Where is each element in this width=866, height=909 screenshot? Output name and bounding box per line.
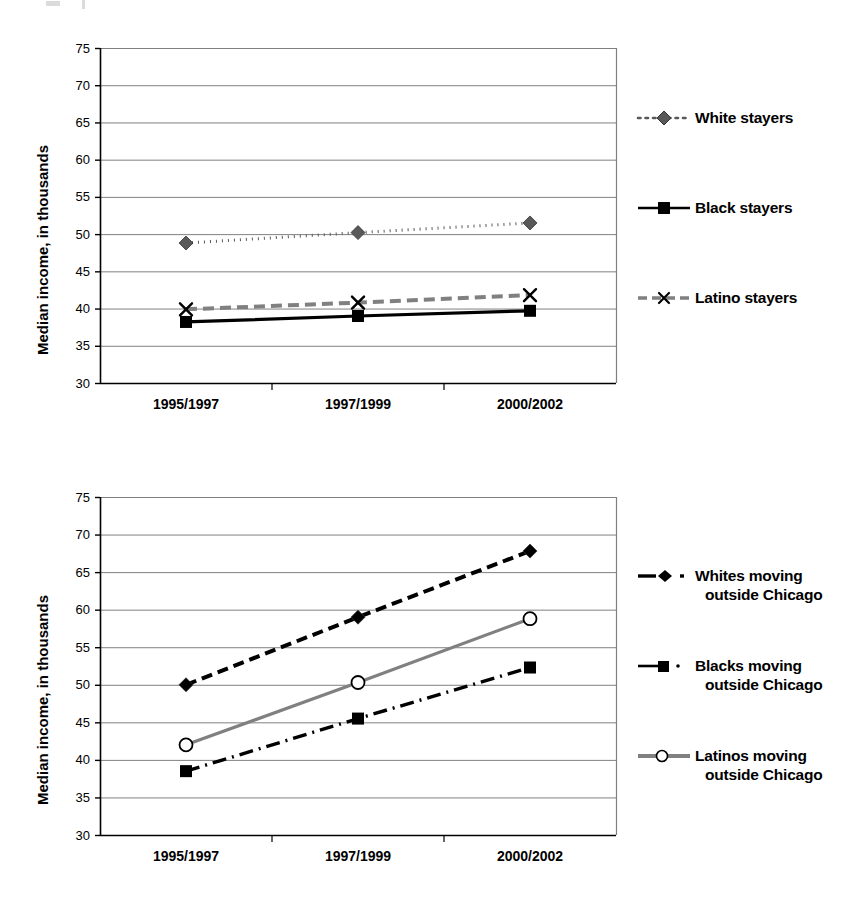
y-tick-label: 60 xyxy=(76,152,90,167)
latino-stayers-key-icon xyxy=(636,288,692,308)
data-point-marker xyxy=(180,765,192,777)
x-tick-labels: 1995/19971997/19992000/2002 xyxy=(153,835,563,864)
data-point-marker xyxy=(352,713,364,725)
y-tick-label: 70 xyxy=(76,78,90,93)
x-tick-labels: 1995/19971997/19992000/2002 xyxy=(153,383,563,412)
legend-label-whites-moving: Whites movingoutside Chicago xyxy=(695,566,823,604)
y-tick-label: 55 xyxy=(76,189,90,204)
y-tick-labels: 30354045505560657075 xyxy=(76,490,90,843)
legend-label-blacks-moving: Blacks movingoutside Chicago xyxy=(695,656,823,694)
y-tick-label: 35 xyxy=(76,338,90,353)
whites-moving-key-icon xyxy=(636,566,692,586)
x-tick-label: 1997/1999 xyxy=(325,396,391,412)
scan-artifact xyxy=(82,0,85,9)
y-tick-label: 30 xyxy=(76,376,90,391)
data-point-marker xyxy=(524,305,536,317)
legend-item-blacks-moving[interactable]: Blacks movingoutside Chicago xyxy=(636,656,823,694)
y-tick-label: 75 xyxy=(76,41,90,56)
x-tick-label: 2000/2002 xyxy=(497,396,563,412)
legend-stayers: White stayers Black stayers xyxy=(636,0,866,460)
x-tick-label: 1997/1999 xyxy=(325,848,391,864)
y-tick-label: 40 xyxy=(76,752,90,767)
latinos-moving-key-icon xyxy=(636,746,692,766)
y-tick-label: 65 xyxy=(76,565,90,580)
y-tick-label: 60 xyxy=(76,602,90,617)
legend-movers: Whites movingoutside Chicago Blacks movi… xyxy=(636,460,866,909)
x-tick-label: 2000/2002 xyxy=(497,848,563,864)
y-tick-label: 35 xyxy=(76,790,90,805)
x-tick-label: 1995/1997 xyxy=(153,396,219,412)
white-stayers-key-icon xyxy=(636,108,692,128)
y-tick-label: 55 xyxy=(76,640,90,655)
y-tick-label: 65 xyxy=(76,115,90,130)
data-point-marker xyxy=(179,678,193,692)
blacks-moving-key-icon xyxy=(636,656,692,676)
data-point-marker xyxy=(180,738,193,751)
data-point-marker xyxy=(352,310,364,322)
chart-movers: Median income, in thousands 303540455055… xyxy=(0,460,866,909)
data-point-marker xyxy=(351,226,365,240)
data-point-marker xyxy=(179,236,193,250)
legend-item-latinos-moving[interactable]: Latinos movingoutside Chicago xyxy=(636,746,823,784)
y-tick-label: 45 xyxy=(76,264,90,279)
y-tick-label: 40 xyxy=(76,301,90,316)
legend-item-whites-moving[interactable]: Whites movingoutside Chicago xyxy=(636,566,823,604)
legend-item-white-stayers[interactable]: White stayers xyxy=(636,108,793,128)
data-point-marker xyxy=(524,612,537,625)
chart-stayers: Median income, in thousands 303540455055… xyxy=(0,0,866,460)
data-point-marker xyxy=(180,316,192,328)
legend-item-latino-stayers[interactable]: Latino stayers xyxy=(636,288,797,308)
data-point-marker xyxy=(352,676,365,689)
legend-label-white-stayers: White stayers xyxy=(695,108,793,127)
y-tick-label: 70 xyxy=(76,527,90,542)
y-tick-label: 45 xyxy=(76,715,90,730)
gridlines xyxy=(95,497,617,836)
y-tick-label: 30 xyxy=(76,828,90,843)
legend-label-latinos-moving: Latinos movingoutside Chicago xyxy=(695,746,823,784)
legend-label-latino-stayers: Latino stayers xyxy=(695,288,797,307)
y-tick-label: 75 xyxy=(76,490,90,505)
legend-label-black-stayers: Black stayers xyxy=(695,198,792,217)
x-tick-label: 1995/1997 xyxy=(153,848,219,864)
data-point-marker xyxy=(523,544,537,558)
legend-item-black-stayers[interactable]: Black stayers xyxy=(636,198,792,218)
y-tick-label: 50 xyxy=(76,227,90,242)
data-point-marker xyxy=(351,610,365,624)
y-tick-labels: 30354045505560657075 xyxy=(76,41,90,391)
series-group xyxy=(179,544,537,777)
gridlines xyxy=(95,48,617,384)
data-point-marker xyxy=(524,662,536,674)
y-tick-label: 50 xyxy=(76,677,90,692)
black-stayers-key-icon xyxy=(636,198,692,218)
data-point-marker xyxy=(523,216,537,230)
scan-artifact xyxy=(46,1,60,6)
